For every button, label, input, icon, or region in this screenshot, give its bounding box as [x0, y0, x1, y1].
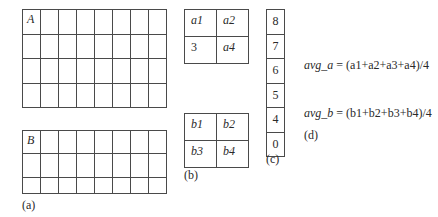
column-cell: 6	[267, 59, 285, 84]
column-cell: 7	[267, 34, 285, 59]
cell-a2: a2	[217, 10, 249, 37]
panel-b-label: (b)	[184, 168, 198, 183]
panel-a-label: (a)	[22, 198, 35, 213]
column-cell: 4	[267, 108, 285, 133]
formula-avg-a: avg_a = (a1+a2+a3+a4)/4	[304, 58, 429, 73]
formula-b-rhs: = (b1+b2+b3+b4)/4	[336, 106, 431, 120]
cell-b1: b1	[185, 114, 217, 141]
grid-b-name: B	[23, 131, 40, 148]
panel-d-label: (d)	[304, 128, 318, 143]
column-cell: 8	[267, 10, 285, 35]
cell-b4: b4	[217, 141, 249, 168]
grid-a: A	[22, 9, 167, 108]
formula-b-lhs: avg_b	[304, 106, 333, 120]
cell-a1: a1	[185, 10, 217, 37]
grid-b-cell: B	[23, 131, 41, 154]
panel-c-label: (c)	[266, 152, 279, 167]
formula-avg-b: avg_b = (b1+b2+b3+b4)/4	[304, 106, 432, 121]
grid-a-name: A	[23, 10, 40, 27]
formula-a-rhs: = (a1+a2+a3+a4)/4	[336, 58, 429, 72]
cell-a4: a4	[217, 37, 249, 64]
value-column: 8 7 6 5 4 0	[266, 9, 285, 157]
small-grid-a: a1 a2 3 a4	[184, 9, 249, 64]
formula-a-lhs: avg_a	[304, 58, 333, 72]
cell-b2: b2	[217, 114, 249, 141]
grid-b: B	[22, 130, 167, 194]
cell-b3: b3	[185, 141, 217, 168]
grid-a-cell: A	[23, 10, 41, 35]
small-grid-b: b1 b2 b3 b4	[184, 113, 249, 168]
cell-a3: 3	[185, 37, 217, 64]
column-cell: 5	[267, 83, 285, 108]
